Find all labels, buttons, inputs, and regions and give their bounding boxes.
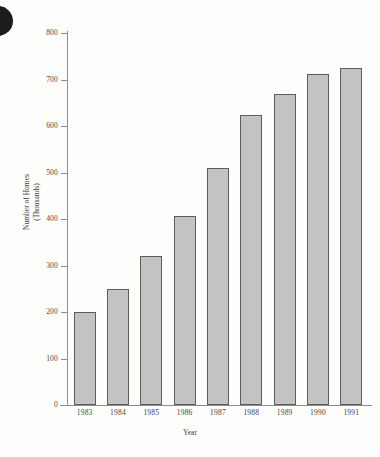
bar <box>107 289 129 405</box>
y-axis-tick <box>61 312 68 313</box>
bar <box>140 256 162 405</box>
x-axis-line <box>60 405 372 406</box>
figure-page: 8007006005004003002001000 19831984198519… <box>0 0 380 457</box>
y-axis-tick-label: 200 <box>18 307 58 316</box>
y-axis-tick <box>61 219 68 220</box>
y-axis-tick <box>61 126 68 127</box>
bar <box>240 115 262 405</box>
bar <box>307 74 329 405</box>
x-axis-title: Year <box>0 428 380 437</box>
bar <box>174 216 196 405</box>
bar <box>74 312 96 405</box>
bar <box>207 168 229 405</box>
y-axis-tick-label: 100 <box>18 354 58 363</box>
y-axis-tick-label: 0 <box>18 400 58 409</box>
y-axis-title-line2: (Thousands) <box>32 137 42 267</box>
bar <box>340 68 362 405</box>
y-axis-tick-label: 700 <box>18 75 58 84</box>
y-axis-tick-label: 600 <box>18 121 58 130</box>
y-axis-tick-label: 800 <box>18 28 58 37</box>
y-axis-tick <box>61 359 68 360</box>
y-axis-tick <box>61 173 68 174</box>
y-axis-title: Number of Homes (Thousands) <box>22 137 46 267</box>
y-axis-tick <box>61 405 68 406</box>
x-axis-tick-label: 1991 <box>331 408 371 417</box>
y-axis-tick <box>61 266 68 267</box>
y-axis-tick <box>61 33 68 34</box>
y-axis-title-line1: Number of Homes <box>22 137 32 267</box>
bar-chart: 8007006005004003002001000 19831984198519… <box>0 0 380 457</box>
bar <box>274 94 296 405</box>
y-axis-tick <box>61 80 68 81</box>
